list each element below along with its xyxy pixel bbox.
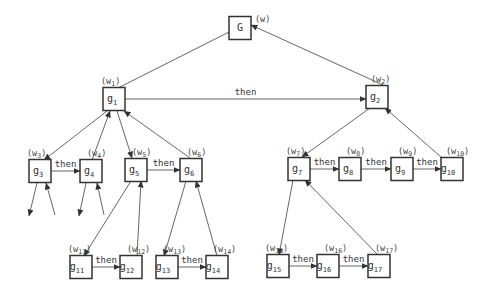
then-label: then [153, 158, 175, 168]
goal-node-g11: g11(w11) [68, 244, 92, 279]
weight-label: (w4) [87, 148, 106, 161]
edge-g4-up [97, 183, 104, 215]
edge-g4-down [79, 183, 86, 216]
diagram-svg: thenthenthenthenthenthenthenthenthenthen… [0, 0, 500, 296]
weight-label: (w7) [286, 146, 305, 159]
weight-label: (w2) [371, 74, 390, 87]
goal-node-g5: g5(w5) [125, 147, 151, 182]
goal-node-g3: g3(w3) [27, 148, 51, 183]
weight-label: (w6) [187, 147, 206, 160]
then-label: then [314, 157, 336, 167]
then-label: then [181, 255, 203, 265]
then-label: then [55, 159, 77, 169]
goal-node-g9: g9(w9) [391, 146, 417, 181]
edge-G-to-g1 [118, 32, 229, 88]
goal-node-g6: g6(w6) [180, 147, 206, 182]
weight-label: (w8) [346, 146, 365, 159]
goal-node-g14: g14(w14) [206, 244, 236, 279]
then-label: then [343, 254, 365, 264]
weight-label: (w12) [127, 244, 150, 257]
edge-g12-to-g5 [137, 181, 141, 256]
goal-node-g8: g8(w8) [339, 146, 365, 181]
edges-layer: thenthenthenthenthenthenthenthenthenthen [29, 25, 441, 267]
nodes-layer: G(w)g1(w1)g2(w2)g3(w3)g4(w4)g5(w5)g6(w6)… [27, 14, 469, 279]
then-label: then [292, 254, 314, 264]
hierarchical-goal-diagram: thenthenthenthenthenthenthenthenthenthen… [0, 0, 500, 296]
edge-g1-to-g5 [117, 111, 132, 158]
weight-label: (w11) [68, 244, 91, 257]
weight-label: (w) [255, 14, 270, 24]
edge-g2-to-G [251, 25, 383, 85]
weight-label: (w15) [265, 243, 288, 256]
weight-label: (w1) [101, 76, 120, 89]
edge-g3-up [46, 183, 55, 215]
goal-node-g15: g15(w15) [265, 243, 289, 278]
edge-g3-down [29, 183, 37, 216]
then-label: then [416, 157, 438, 167]
goal-label: G [237, 22, 243, 33]
goal-node-G: G(w) [229, 14, 270, 40]
weight-label: (w9) [398, 146, 417, 159]
goal-node-g1: g1(w1) [101, 76, 125, 111]
weight-label: (w3) [27, 148, 46, 161]
goal-node-g12: g12(w12) [120, 244, 150, 279]
weight-label: (w10) [446, 146, 469, 159]
goal-node-g7: g7(w7) [286, 146, 310, 181]
goal-node-g10: g10(w10) [441, 146, 469, 181]
goal-node-g4: g4(w4) [80, 148, 106, 183]
then-label: then [235, 87, 257, 97]
goal-node-g17: g17(w17) [368, 243, 398, 278]
weight-label: (w17) [375, 243, 398, 256]
then-label: then [95, 255, 117, 265]
then-label: then [365, 157, 387, 167]
weight-label: (w5) [132, 147, 151, 160]
